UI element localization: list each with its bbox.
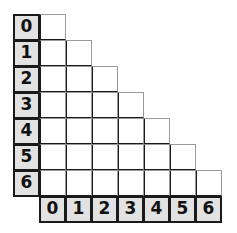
column-header-1: 1 [65, 196, 92, 223]
grid-cell [39, 14, 66, 41]
grid-cell [65, 66, 92, 93]
grid-cell [143, 144, 170, 171]
row-header-label: 4 [21, 122, 33, 139]
column-header-0: 0 [39, 196, 66, 223]
grid-cell [65, 144, 92, 171]
grid-cell [39, 40, 66, 67]
column-header-3: 3 [117, 196, 144, 223]
grid-cell [39, 92, 66, 119]
grid-cell [65, 118, 92, 145]
column-header-label: 6 [203, 200, 215, 217]
grid-cell [143, 170, 170, 197]
row-header-label: 5 [21, 148, 33, 165]
grid-cell [39, 118, 66, 145]
column-header-label: 4 [151, 200, 163, 217]
row-header-label: 2 [21, 70, 33, 87]
grid-cell [91, 66, 118, 93]
column-header-label: 5 [177, 200, 189, 217]
grid-cell [65, 40, 92, 67]
grid-cell [117, 118, 144, 145]
grid-cell [117, 92, 144, 119]
grid-cell [91, 118, 118, 145]
grid-cell [169, 170, 196, 197]
grid-cell [91, 144, 118, 171]
grid-cell [169, 144, 196, 171]
grid-cell [39, 66, 66, 93]
column-header-label: 0 [47, 200, 59, 217]
grid-cell [143, 118, 170, 145]
grid-cell [195, 170, 222, 197]
column-header-5: 5 [169, 196, 196, 223]
grid-cell [65, 170, 92, 197]
column-header-6: 6 [195, 196, 222, 223]
row-header-2: 2 [13, 66, 40, 93]
grid-cell [39, 144, 66, 171]
row-header-label: 6 [21, 174, 33, 191]
row-header-4: 4 [13, 118, 40, 145]
row-header-label: 3 [21, 96, 33, 113]
column-header-label: 1 [73, 200, 85, 217]
row-header-1: 1 [13, 40, 40, 67]
grid-cell [117, 144, 144, 171]
column-header-label: 3 [125, 200, 137, 217]
grid-cell [117, 170, 144, 197]
row-header-0: 0 [13, 14, 40, 41]
triangular-grid-figure: 01234560123456 [0, 0, 237, 233]
row-header-3: 3 [13, 92, 40, 119]
grid-cell [91, 170, 118, 197]
column-header-2: 2 [91, 196, 118, 223]
row-header-label: 0 [21, 18, 33, 35]
row-header-6: 6 [13, 170, 40, 197]
row-header-label: 1 [21, 44, 33, 61]
column-header-label: 2 [99, 200, 111, 217]
grid-cell [91, 92, 118, 119]
grid-cell [39, 170, 66, 197]
row-header-5: 5 [13, 144, 40, 171]
column-header-4: 4 [143, 196, 170, 223]
grid-cell [65, 92, 92, 119]
